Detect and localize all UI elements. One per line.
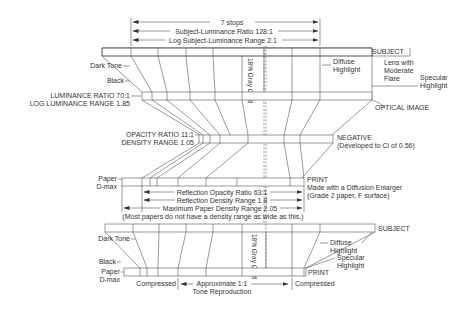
bottom-dmax-label: D-max	[99, 276, 120, 283]
paper-density-note: (Most papers do not have a density range…	[122, 213, 303, 221]
dmax-label: D-max	[96, 183, 117, 190]
top-range-arrows: 7 stops Subject-Luminance Ratio 128:1 Lo…	[131, 18, 320, 46]
print-range-arrows: Reflection Opacity Ratio 63:1 Reflection…	[122, 186, 304, 221]
bottom-specular-label-1: Specular	[337, 254, 365, 262]
log-luminance-range-label: LOG LUMINANCE RANGE 1.85	[30, 100, 130, 107]
print-note-1: Made with a Diffusion Enlarger	[307, 184, 403, 192]
bottom-diffuse-label-1: Diffuse	[330, 239, 352, 246]
print-bar	[122, 178, 304, 186]
bottom-print-bar	[124, 268, 306, 276]
optical-image-label: OPTICAL IMAGE	[375, 104, 430, 111]
maximum-paper-density-label: Maximum Paper Density Range 2.05	[163, 205, 277, 213]
subject-luminance-ratio-label: Subject-Luminance Ratio 128:1	[175, 28, 273, 36]
approximate-tone-label-1: Approximate 1:1	[197, 280, 248, 288]
diffuse-highlight-label-2: Highlight	[333, 66, 360, 74]
black-label: Black	[107, 77, 125, 84]
diffuse-highlight-label-1: Diffuse	[333, 58, 355, 65]
lens-flare-label-1: Lens with	[384, 59, 414, 66]
negative-label: NEGATIVE	[337, 134, 372, 141]
compressed-right-label: Compressed	[295, 280, 335, 288]
luminance-ratio-label: LUMINANCE RATIO 70:1	[50, 92, 130, 99]
lens-flare-label-2: Moderate	[384, 67, 414, 74]
bottom-specular-label-2: Highlight	[337, 262, 364, 270]
bottom-subject-label: SUBJECT	[378, 225, 411, 232]
log-subject-luminance-range-label: Log Subject-Luminance Range 2.1	[169, 37, 277, 45]
dark-tone-label: Dark Tone	[90, 62, 122, 69]
approximate-tone-label-2: Tone Reproduction	[193, 288, 252, 296]
subject-bar: SUBJECT	[102, 48, 410, 56]
specular-highlight-label-1: Specular	[420, 74, 448, 82]
print-note-2: (Grade 2 paper, F surface)	[307, 192, 389, 200]
negative-bar	[199, 135, 333, 143]
optical-to-negative-lines	[142, 100, 372, 135]
paper-label: Paper	[98, 175, 117, 183]
bottom-print-label: PRINT	[308, 269, 330, 276]
bottom-dark-tone-label: Dark Tone	[98, 235, 130, 242]
tone-reproduction-diagram: 7 stops Subject-Luminance Ratio 128:1 Lo…	[0, 0, 470, 311]
compressed-left-label: Compressed	[136, 280, 176, 288]
specular-highlight-label-2: Highlight	[420, 82, 447, 90]
subject-label: SUBJECT	[372, 48, 405, 55]
negative-note: (Developed to Ci of 0.56)	[337, 142, 415, 150]
reflection-density-range-label: Reflection Density Range 1.8	[177, 197, 268, 205]
opacity-ratio-label: OPACITY RATIO 11:1	[126, 131, 194, 138]
density-range-label: DENSITY RANGE 1.05	[121, 139, 194, 146]
reflection-opacity-ratio-label: Reflection Opacity Ratio 63:1	[177, 189, 268, 197]
bottom-paper-label: Paper	[101, 268, 120, 276]
bottom-black-label: Black	[99, 258, 117, 265]
print-label: PRINT	[307, 176, 329, 183]
optical-image-bar	[142, 92, 372, 100]
negative-to-print-lines	[142, 143, 333, 178]
bottom-subject-bar	[105, 224, 375, 232]
lens-flare-label-3: Flare	[384, 75, 400, 82]
stops-label: 7 stops	[221, 19, 244, 27]
